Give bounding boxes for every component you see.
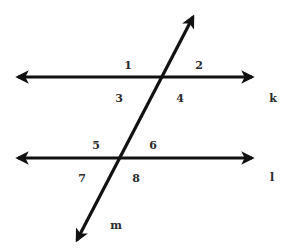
parallel-lines-diagram: 12345678 klm bbox=[0, 0, 293, 251]
angle-label-8: 8 bbox=[132, 172, 140, 185]
line-m bbox=[77, 17, 193, 240]
line-label-k: k bbox=[269, 92, 277, 105]
angle-label-4: 4 bbox=[176, 92, 184, 105]
angle-label-2: 2 bbox=[195, 59, 203, 72]
angle-label-3: 3 bbox=[115, 92, 123, 105]
line-label-m: m bbox=[110, 219, 122, 232]
angle-label-5: 5 bbox=[92, 139, 100, 152]
line-label-l: l bbox=[270, 171, 274, 184]
line-labels-group: klm bbox=[110, 92, 277, 232]
angle-label-1: 1 bbox=[124, 59, 132, 72]
angle-label-6: 6 bbox=[149, 139, 157, 152]
angle-label-7: 7 bbox=[78, 172, 86, 185]
lines-group bbox=[18, 17, 252, 240]
diagram-canvas: 12345678 klm bbox=[0, 0, 293, 251]
